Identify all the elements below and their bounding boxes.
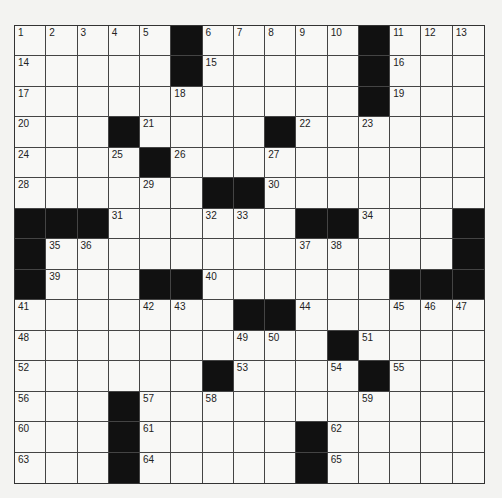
grid-cell[interactable]: [296, 392, 327, 422]
grid-cell[interactable]: 35: [46, 239, 77, 269]
grid-cell[interactable]: [171, 392, 202, 422]
grid-cell[interactable]: [421, 239, 452, 269]
grid-cell[interactable]: [109, 87, 140, 117]
grid-cell[interactable]: 29: [140, 178, 171, 208]
grid-cell[interactable]: 1: [15, 26, 46, 56]
grid-cell[interactable]: 43: [171, 300, 202, 330]
grid-cell[interactable]: [203, 422, 234, 452]
grid-cell[interactable]: [203, 87, 234, 117]
grid-cell[interactable]: [78, 453, 109, 483]
grid-cell[interactable]: 55: [390, 361, 421, 391]
grid-cell[interactable]: [78, 392, 109, 422]
grid-cell[interactable]: [78, 148, 109, 178]
grid-cell[interactable]: [46, 117, 77, 147]
grid-cell[interactable]: 45: [390, 300, 421, 330]
grid-cell[interactable]: [265, 239, 296, 269]
grid-cell[interactable]: 6: [203, 26, 234, 56]
grid-cell[interactable]: [46, 331, 77, 361]
grid-cell[interactable]: 48: [15, 331, 46, 361]
grid-cell[interactable]: [78, 270, 109, 300]
grid-cell[interactable]: [453, 331, 484, 361]
grid-cell[interactable]: [421, 331, 452, 361]
grid-cell[interactable]: [453, 392, 484, 422]
grid-cell[interactable]: 21: [140, 117, 171, 147]
grid-cell[interactable]: 53: [234, 361, 265, 391]
grid-cell[interactable]: [78, 422, 109, 452]
grid-cell[interactable]: [78, 300, 109, 330]
grid-cell[interactable]: 40: [203, 270, 234, 300]
grid-cell[interactable]: [421, 178, 452, 208]
grid-cell[interactable]: [234, 117, 265, 147]
grid-cell[interactable]: 59: [359, 392, 390, 422]
grid-cell[interactable]: 41: [15, 300, 46, 330]
grid-cell[interactable]: [46, 87, 77, 117]
grid-cell[interactable]: [296, 331, 327, 361]
grid-cell[interactable]: [453, 422, 484, 452]
grid-cell[interactable]: 61: [140, 422, 171, 452]
grid-cell[interactable]: [421, 56, 452, 86]
grid-cell[interactable]: [453, 87, 484, 117]
grid-cell[interactable]: [140, 56, 171, 86]
grid-cell[interactable]: [46, 178, 77, 208]
grid-cell[interactable]: [203, 300, 234, 330]
grid-cell[interactable]: [140, 209, 171, 239]
grid-cell[interactable]: [265, 453, 296, 483]
grid-cell[interactable]: 26: [171, 148, 202, 178]
grid-cell[interactable]: 36: [78, 239, 109, 269]
grid-cell[interactable]: [109, 56, 140, 86]
grid-cell[interactable]: 30: [265, 178, 296, 208]
grid-cell[interactable]: [328, 148, 359, 178]
grid-cell[interactable]: [203, 453, 234, 483]
grid-cell[interactable]: [359, 270, 390, 300]
grid-cell[interactable]: [203, 331, 234, 361]
grid-cell[interactable]: [359, 300, 390, 330]
grid-cell[interactable]: [234, 453, 265, 483]
grid-cell[interactable]: 12: [421, 26, 452, 56]
grid-cell[interactable]: 65: [328, 453, 359, 483]
grid-cell[interactable]: 56: [15, 392, 46, 422]
grid-cell[interactable]: [421, 209, 452, 239]
grid-cell[interactable]: [390, 117, 421, 147]
grid-cell[interactable]: 25: [109, 148, 140, 178]
grid-cell[interactable]: 20: [15, 117, 46, 147]
grid-cell[interactable]: 46: [421, 300, 452, 330]
grid-cell[interactable]: [328, 117, 359, 147]
grid-cell[interactable]: [203, 117, 234, 147]
grid-cell[interactable]: 5: [140, 26, 171, 56]
grid-cell[interactable]: 22: [296, 117, 327, 147]
grid-cell[interactable]: 51: [359, 331, 390, 361]
grid-cell[interactable]: [359, 453, 390, 483]
grid-cell[interactable]: [265, 270, 296, 300]
grid-cell[interactable]: [328, 56, 359, 86]
grid-cell[interactable]: [296, 87, 327, 117]
grid-cell[interactable]: 27: [265, 148, 296, 178]
grid-cell[interactable]: [78, 87, 109, 117]
grid-cell[interactable]: [265, 422, 296, 452]
grid-cell[interactable]: [171, 361, 202, 391]
grid-cell[interactable]: [390, 331, 421, 361]
grid-cell[interactable]: 11: [390, 26, 421, 56]
grid-cell[interactable]: 2: [46, 26, 77, 56]
grid-cell[interactable]: [359, 239, 390, 269]
grid-cell[interactable]: 7: [234, 26, 265, 56]
grid-cell[interactable]: [109, 361, 140, 391]
grid-cell[interactable]: [359, 148, 390, 178]
grid-cell[interactable]: [296, 178, 327, 208]
grid-cell[interactable]: [421, 453, 452, 483]
grid-cell[interactable]: 52: [15, 361, 46, 391]
grid-cell[interactable]: [171, 453, 202, 483]
grid-cell[interactable]: 47: [453, 300, 484, 330]
grid-cell[interactable]: [109, 239, 140, 269]
grid-cell[interactable]: 39: [46, 270, 77, 300]
grid-cell[interactable]: [296, 361, 327, 391]
grid-cell[interactable]: [78, 56, 109, 86]
grid-cell[interactable]: [265, 392, 296, 422]
grid-cell[interactable]: [171, 117, 202, 147]
grid-cell[interactable]: [109, 300, 140, 330]
grid-cell[interactable]: 8: [265, 26, 296, 56]
grid-cell[interactable]: [46, 392, 77, 422]
grid-cell[interactable]: 50: [265, 331, 296, 361]
grid-cell[interactable]: [46, 300, 77, 330]
grid-cell[interactable]: 13: [453, 26, 484, 56]
grid-cell[interactable]: [234, 148, 265, 178]
